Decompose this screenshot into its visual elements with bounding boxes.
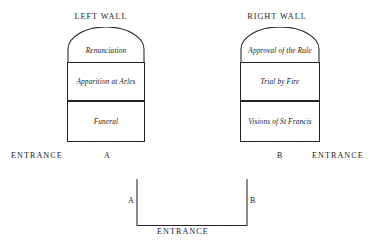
right-wall-group: RIGHT WALL Approval of the Rule Trial by…: [222, 12, 332, 152]
right-entrance-label: ENTRANCE: [312, 151, 364, 160]
left-wall-group: LEFT WALL Renunciation Apparition at Arl…: [46, 12, 156, 152]
left-wall-register-2: Funeral: [67, 101, 145, 142]
left-entrance-label: ENTRANCE: [11, 151, 63, 160]
right-wall-title: RIGHT WALL: [247, 12, 307, 21]
left-wall-lunette-outline: [67, 27, 145, 63]
right-wall-register-1-label: Trial by Fire: [261, 77, 300, 86]
left-wall-register-2-label: Funeral: [94, 117, 119, 126]
right-wall-lunette-outline: [240, 27, 320, 63]
right-wall-register-2-label: Visions of St Francis: [248, 117, 312, 126]
left-wall-title: LEFT WALL: [74, 12, 127, 21]
floor-plan-entrance-label: ENTRANCE: [157, 227, 209, 236]
figure-canvas: LEFT WALL Renunciation Apparition at Arl…: [0, 0, 379, 241]
left-wall-corner-marker-a: A: [104, 151, 110, 160]
floor-plan-outline: [136, 179, 248, 227]
floor-plan-marker-b: B: [250, 196, 256, 205]
right-wall-corner-marker-b: B: [277, 151, 283, 160]
right-wall-register-1: Trial by Fire: [240, 62, 320, 101]
left-wall-register-1: Apparition at Arles: [67, 62, 145, 101]
left-wall-register-1-label: Apparition at Arles: [76, 77, 135, 86]
floor-plan-marker-a: A: [128, 196, 134, 205]
right-wall-register-0-label: Approval of the Rule: [240, 46, 320, 55]
left-wall-register-0-label: Renunciation: [67, 46, 145, 55]
right-wall-register-2: Visions of St Francis: [240, 101, 320, 142]
